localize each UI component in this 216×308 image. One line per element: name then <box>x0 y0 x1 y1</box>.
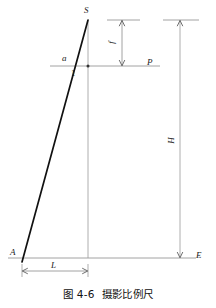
figure-photographic-scale: S a 1 P A E f H L 图 4-6摄影比例尺 <box>0 0 216 308</box>
projection-ray-SA <box>22 20 88 262</box>
label-ground-point-a: A <box>10 248 16 257</box>
label-image-plane-p: P <box>147 58 153 67</box>
figure-caption: 图 4-6摄影比例尺 <box>0 286 216 301</box>
label-principal-point-1: 1 <box>71 69 76 78</box>
label-ground-distance-l: L <box>51 261 56 270</box>
label-apex-s: S <box>84 6 89 15</box>
caption-number: 图 4-6 <box>63 288 95 300</box>
label-ground-end-e: E <box>196 251 202 260</box>
label-focal-length-f: f <box>107 41 116 44</box>
label-flying-height-h: H <box>167 137 176 144</box>
label-image-point-a: a <box>62 54 67 63</box>
caption-title: 摄影比例尺 <box>102 288 154 300</box>
diagram-canvas <box>0 0 216 308</box>
principal-point-marker <box>87 65 90 68</box>
